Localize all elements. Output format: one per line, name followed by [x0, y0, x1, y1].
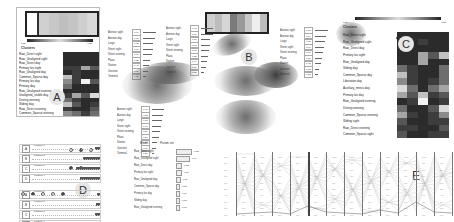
heatmap-cell[interactable]	[428, 78, 438, 85]
heatmap-cell[interactable]	[418, 78, 428, 85]
panel-a-heatmap[interactable]	[63, 52, 99, 116]
heatmap-cell[interactable]	[439, 92, 449, 99]
histogram-row[interactable]: Primary los day0.17	[134, 190, 234, 197]
cluster-2[interactable]	[140, 62, 200, 84]
row-label[interactable]: Raw_Direct sight	[343, 32, 395, 39]
row-label[interactable]: Raw_Direct day	[343, 45, 395, 52]
feature-row[interactable]: CFeature 3	[19, 210, 101, 219]
heatmap-cell[interactable]	[81, 111, 90, 116]
row-label[interactable]: Driving evening	[343, 105, 395, 112]
row-label[interactable]: Common_Sparse evening	[343, 112, 395, 119]
heatmap-cell[interactable]	[418, 105, 428, 112]
heatmap-cell[interactable]	[407, 98, 417, 105]
histogram-row[interactable]: Primary los sight0.29	[134, 169, 234, 176]
heatmap-cell[interactable]	[439, 78, 449, 85]
pc-axis[interactable]	[362, 152, 363, 216]
pc-axis[interactable]	[452, 152, 453, 216]
histogram-row[interactable]: Raw_Direct sight0.82	[134, 148, 234, 155]
feature-row[interactable]: DFeature 4	[19, 220, 101, 222]
feature-row[interactable]: AFeature 1	[19, 190, 101, 199]
row-label[interactable]: Raw_Unaligned sight	[343, 39, 395, 46]
heatmap-cell[interactable]	[418, 52, 428, 59]
heatmap-cell[interactable]	[418, 39, 428, 46]
pc-axis[interactable]	[344, 152, 345, 216]
row-label[interactable]: Raw_Direct evening	[343, 125, 395, 132]
heatmap-cell[interactable]	[397, 118, 407, 125]
heatmap-cell[interactable]	[439, 131, 449, 138]
pc-axis[interactable]	[416, 152, 417, 216]
pc-axis[interactable]	[398, 152, 399, 216]
heatmap-cell[interactable]	[428, 52, 438, 59]
heatmap-cell[interactable]	[418, 65, 428, 72]
heatmap-cell[interactable]	[428, 105, 438, 112]
heatmap-cell[interactable]	[397, 72, 407, 79]
heatmap-cell[interactable]	[397, 85, 407, 92]
heatmap-cell[interactable]	[72, 111, 81, 116]
heatmap-cell[interactable]	[428, 45, 438, 52]
heatmap-cell[interactable]	[418, 125, 428, 132]
heatmap-cell[interactable]	[407, 105, 417, 112]
heatmap-cell[interactable]	[397, 92, 407, 99]
heatmap-cell[interactable]	[407, 85, 417, 92]
heatmap-cell[interactable]	[397, 59, 407, 66]
histogram-row[interactable]: Raw_Unaligned sight0.74	[134, 155, 234, 162]
heatmap-cell[interactable]	[428, 32, 438, 39]
row-label[interactable]: Auxiliary_minus day	[343, 85, 395, 92]
heatmap-cell[interactable]	[439, 39, 449, 46]
feature-row[interactable]: CFeature 3	[19, 164, 101, 173]
heatmap-cell[interactable]	[418, 59, 428, 66]
heatmap-cell[interactable]	[397, 125, 407, 132]
heatmap-cell[interactable]	[439, 125, 449, 132]
pc-axis[interactable]	[308, 152, 310, 216]
heatmap-cell[interactable]	[407, 92, 417, 99]
heatmap-cell[interactable]	[439, 105, 449, 112]
heatmap-cell[interactable]	[418, 45, 428, 52]
histogram-row[interactable]: Raw_Unaligned evening0.10	[134, 204, 234, 211]
heatmap-cell[interactable]	[407, 59, 417, 66]
heatmap-cell[interactable]	[397, 78, 407, 85]
pc-axis[interactable]	[272, 152, 273, 216]
pc-axis[interactable]	[380, 152, 381, 216]
row-label[interactable]: Common_Sparse sight	[343, 131, 395, 138]
histogram-row[interactable]: Raw_Unaligned day0.24	[134, 176, 234, 183]
heatmap-cell[interactable]	[439, 72, 449, 79]
heatmap-cell[interactable]	[439, 45, 449, 52]
heatmap-cell[interactable]	[439, 52, 449, 59]
row-label[interactable]: Common_Sparse evening	[19, 111, 63, 116]
feature-row[interactable]: BFeature 2	[19, 154, 101, 163]
heatmap-cell[interactable]	[439, 85, 449, 92]
pc-axis[interactable]	[236, 152, 237, 216]
heatmap-cell[interactable]	[418, 98, 428, 105]
heatmap-cell[interactable]	[63, 111, 72, 116]
cluster-5-dense[interactable]	[254, 62, 298, 88]
row-label[interactable]: Liberation day	[343, 78, 395, 85]
pc-axis[interactable]	[326, 152, 327, 216]
heatmap-cell[interactable]	[428, 131, 438, 138]
row-label[interactable]: Raw_Unaligned day	[343, 59, 395, 66]
heatmap-cell[interactable]	[407, 112, 417, 119]
heatmap-cell[interactable]	[428, 72, 438, 79]
heatmap-cell[interactable]	[90, 111, 99, 116]
heatmap-cell[interactable]	[407, 52, 417, 59]
heatmap-cell[interactable]	[418, 131, 428, 138]
heatmap-cell[interactable]	[428, 85, 438, 92]
heatmap-cell[interactable]	[407, 125, 417, 132]
heatmap-cell[interactable]	[428, 118, 438, 125]
pc-axis[interactable]	[290, 152, 291, 216]
cluster-6[interactable]	[216, 100, 276, 134]
panel-e-parallel-coordinates[interactable]: E 10009008007006005004003002001001000900…	[232, 146, 452, 220]
pc-axis[interactable]	[254, 152, 255, 216]
row-label[interactable]: Common_Sparse day	[343, 72, 395, 79]
heatmap-cell[interactable]	[418, 72, 428, 79]
heatmap-cell[interactable]	[428, 112, 438, 119]
heatmap-cell[interactable]	[428, 125, 438, 132]
heatmap-cell[interactable]	[397, 52, 407, 59]
pc-axis[interactable]	[434, 152, 435, 216]
feature-row[interactable]: BFeature 2	[19, 200, 101, 209]
row-label[interactable]: Primary los sight	[343, 52, 395, 59]
heatmap-cell[interactable]	[407, 131, 417, 138]
histogram-row[interactable]: Common_Sparse day0.13	[134, 183, 234, 190]
heatmap-cell[interactable]	[418, 92, 428, 99]
heatmap-cell[interactable]	[439, 118, 449, 125]
heatmap-cell[interactable]	[428, 59, 438, 66]
